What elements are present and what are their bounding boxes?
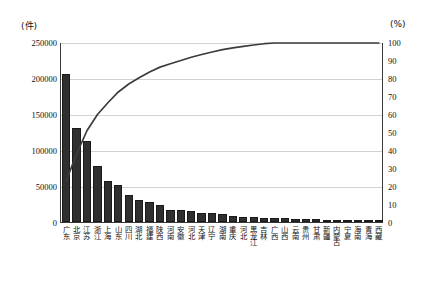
- left-axis-ticks: 250000200000150000100000500000: [0, 0, 57, 281]
- category-label: 海南: [353, 225, 361, 238]
- category-label: 福建: [145, 225, 153, 238]
- plot-area: [60, 43, 383, 223]
- category-label: 甘肃: [311, 225, 319, 238]
- right-tick-label: 50: [388, 129, 397, 138]
- left-tick-label: 100000: [32, 147, 58, 156]
- category-label: 广西: [270, 225, 278, 238]
- left-tick-label: 0: [53, 219, 57, 228]
- category-label: 山东: [114, 225, 122, 238]
- category-label: 湖北: [134, 225, 142, 238]
- right-tick-label: 80: [388, 75, 397, 84]
- right-tick-label: 30: [388, 165, 397, 174]
- category-label: 河南: [166, 225, 174, 238]
- category-label: 湖南: [218, 225, 226, 238]
- category-label: 辽宁: [207, 225, 215, 238]
- right-tick-label: 40: [388, 147, 397, 156]
- category-label: 贵州: [301, 225, 309, 238]
- right-tick-label: 0: [388, 219, 392, 228]
- category-label: 黑龙江: [249, 225, 257, 245]
- category-label: 宁夏: [343, 225, 351, 238]
- category-label: 西藏: [374, 225, 382, 238]
- category-label: 新疆: [322, 225, 330, 238]
- category-label: 安徽: [176, 225, 184, 238]
- category-label: 北京: [72, 225, 80, 238]
- category-label: 云南: [291, 225, 299, 238]
- category-label: 山西: [280, 225, 288, 238]
- category-label: 内蒙古: [332, 225, 340, 245]
- right-tick-label: 90: [388, 57, 397, 66]
- right-tick-label: 10: [388, 201, 397, 210]
- category-label: 上海: [103, 225, 111, 238]
- category-label: 江苏: [82, 225, 90, 238]
- chart-root: (件) (%) 250000200000150000100000500000 1…: [0, 0, 436, 281]
- category-label: 浙江: [93, 225, 101, 238]
- category-label: 广东: [61, 225, 69, 238]
- category-labels: 广东北京江苏浙江上海山东四川湖北福建陕西河南安徽河北天津辽宁湖南重庆河北黑龙江吉…: [60, 225, 383, 281]
- right-axis-ticks: 1009080706050403020100: [388, 0, 434, 281]
- right-tick-label: 100: [388, 39, 401, 48]
- right-tick-label: 60: [388, 111, 397, 120]
- category-label: 陕西: [155, 225, 163, 238]
- category-label: 河北: [239, 225, 247, 238]
- category-label: 四川: [124, 225, 132, 238]
- cumulative-polyline: [66, 43, 379, 181]
- category-label: 河北: [186, 225, 194, 238]
- left-tick-label: 150000: [32, 111, 58, 120]
- category-label: 天津: [197, 225, 205, 238]
- category-label: 重庆: [228, 225, 236, 238]
- right-tick-label: 70: [388, 93, 397, 102]
- category-label: 青海: [364, 225, 372, 238]
- left-tick-label: 250000: [32, 39, 58, 48]
- right-tick-label: 20: [388, 183, 397, 192]
- left-tick-label: 200000: [32, 75, 58, 84]
- category-label: 吉林: [259, 225, 267, 238]
- cumulative-line-series: [61, 43, 384, 223]
- left-tick-label: 50000: [36, 183, 57, 192]
